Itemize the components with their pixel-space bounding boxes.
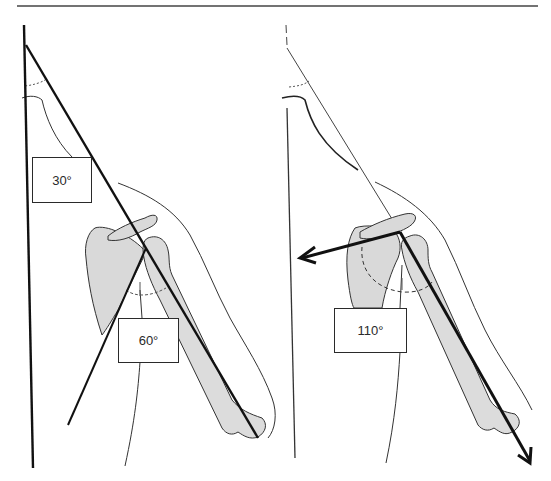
left-panel bbox=[22, 25, 275, 468]
left-torso-outline bbox=[22, 96, 72, 157]
label-110-degrees: 110° bbox=[334, 308, 407, 353]
label-30-degrees: 30° bbox=[32, 157, 92, 203]
left-vertical-reference bbox=[24, 25, 33, 468]
left-acromion bbox=[108, 215, 157, 240]
shoulder-figure bbox=[0, 0, 551, 481]
right-thin-diagonal bbox=[287, 48, 400, 232]
right-panel bbox=[282, 25, 532, 463]
right-vertical-reference bbox=[286, 25, 287, 45]
right-torso-outline bbox=[282, 96, 358, 170]
label-60-degrees: 60° bbox=[118, 318, 179, 363]
left-humeral-axis bbox=[26, 45, 258, 438]
left-top-arc bbox=[25, 80, 45, 86]
right-humeral-axis-arrow bbox=[400, 232, 530, 461]
left-body-line bbox=[125, 290, 142, 466]
